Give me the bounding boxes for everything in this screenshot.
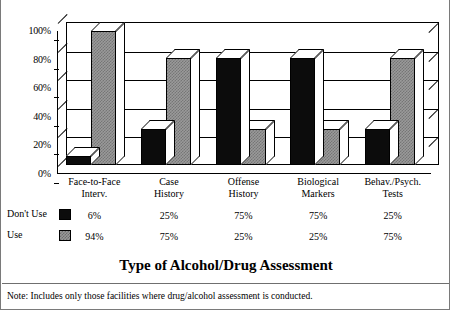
y-axis-tick-label: 60%	[5, 83, 51, 93]
bar-side-face	[116, 22, 125, 165]
bar-front-face	[141, 129, 166, 165]
x-axis-category-label: Behav./Psych.Tests	[347, 176, 438, 200]
y-axis-tick-label: 0%	[5, 169, 51, 179]
bar-dont-use	[216, 58, 241, 165]
bar-side-face	[415, 49, 424, 165]
chart-figure: 0%20%40%60%80%100% Face-to-FaceInterv.Ca…	[0, 0, 450, 310]
bar-series-group	[57, 22, 439, 174]
bar-side-face	[315, 49, 324, 165]
bar-dont-use	[290, 58, 315, 165]
legend-row-dont-use: Don't Use6%25%75%75%25%	[1, 208, 450, 228]
bar-front-face	[365, 129, 390, 165]
footnote-divider	[2, 283, 450, 284]
bar-dont-use	[66, 156, 91, 165]
legend-row-use: Use94%75%25%25%75%	[1, 229, 450, 249]
legend-value-table: Don't Use6%25%75%75%25%Use94%75%25%25%75…	[1, 208, 450, 252]
x-axis-category-labels: Face-to-FaceInterv.CaseHistoryOffenseHis…	[57, 176, 439, 204]
bar-front-face	[66, 156, 91, 165]
chart-footnote: Note: Includes only those facilities whe…	[7, 290, 447, 302]
bar-use	[91, 31, 116, 165]
x-axis-category-label-line: Tests	[347, 188, 438, 200]
bar-front-face	[216, 58, 241, 165]
legend-value: 25%	[347, 210, 438, 222]
chart-3d-box	[57, 22, 439, 174]
bar-dont-use	[141, 129, 166, 165]
y-axis-tick-labels: 0%20%40%60%80%100%	[5, 0, 51, 190]
y-axis-tick-label: 100%	[5, 26, 51, 36]
legend-value: 75%	[347, 231, 438, 243]
bar-front-face	[91, 31, 116, 165]
y-axis-tick-label: 40%	[5, 112, 51, 122]
bar-dont-use	[365, 129, 390, 165]
chart-title: Type of Alcohol/Drug Assessment	[1, 256, 450, 274]
bar-side-face	[241, 49, 250, 165]
y-axis-tick-label: 80%	[5, 55, 51, 65]
bar-front-face	[290, 58, 315, 165]
x-axis-category-label-line: Behav./Psych.	[347, 176, 438, 188]
y-axis-tick-label: 20%	[5, 140, 51, 150]
plot-area: 0%20%40%60%80%100%	[1, 0, 450, 190]
bar-side-face	[191, 49, 200, 165]
